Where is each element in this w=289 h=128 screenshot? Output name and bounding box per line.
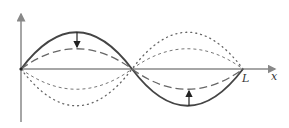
origin-node	[19, 67, 22, 70]
standing-wave-diagram: L x	[0, 0, 289, 128]
end-label-L: L	[241, 72, 249, 85]
x-axis-label: x	[271, 70, 278, 83]
